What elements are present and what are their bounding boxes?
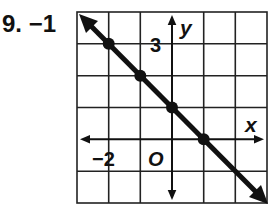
origin-label: O: [148, 148, 164, 170]
x-axis-label: x: [244, 113, 258, 136]
coordinate-graph: 3 y x −2 O: [0, 0, 274, 206]
point-1-0: [198, 133, 210, 145]
point-0-1: [166, 102, 178, 114]
x-axis-left-arrow-icon: [80, 135, 90, 144]
point-neg2-3: [103, 38, 115, 50]
x-tick-label: −2: [92, 148, 115, 170]
y-axis-down-arrow-icon: [168, 190, 177, 200]
y-axis-label: y: [179, 16, 193, 39]
y-axis-up-arrow-icon: [168, 15, 177, 25]
point-neg1-2: [134, 70, 146, 82]
x-axis-right-arrow-icon: [254, 135, 264, 144]
y-tick-label: 3: [150, 34, 161, 56]
